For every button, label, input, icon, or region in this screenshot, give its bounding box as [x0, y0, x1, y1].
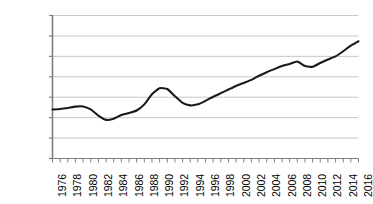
x-tick-label: 1980 [88, 174, 99, 197]
x-tick-label: 1976 [57, 174, 68, 197]
x-tick-label: 1992 [179, 174, 190, 197]
x-tick-label: 1988 [149, 174, 160, 197]
x-tick-label: 2012 [332, 174, 343, 197]
x-tick-label: 1996 [210, 174, 221, 197]
x-tick-label: 2000 [241, 174, 252, 197]
x-tick-label: 2004 [271, 174, 282, 197]
x-tick-label: 2008 [302, 174, 313, 197]
x-tick-label: 1982 [103, 174, 114, 197]
x-tick-label: 2014 [348, 174, 359, 197]
x-tick-label: 2016 [363, 174, 373, 197]
x-tick-label: 2006 [287, 174, 298, 197]
x-axis-tick-labels: 1976197819801982198419861988199019921994… [0, 0, 373, 204]
x-tick-label: 1990 [164, 174, 175, 197]
x-tick-label: 1978 [72, 174, 83, 197]
x-tick-label: 1998 [225, 174, 236, 197]
x-tick-label: 2002 [256, 174, 267, 197]
x-tick-label: 2010 [317, 174, 328, 197]
x-tick-label: 1994 [195, 174, 206, 197]
x-tick-label: 1986 [134, 174, 145, 197]
line-chart: 34,00032,00030,00028,00026,00024,00022,0… [0, 0, 373, 204]
x-tick-label: 1984 [118, 174, 129, 197]
